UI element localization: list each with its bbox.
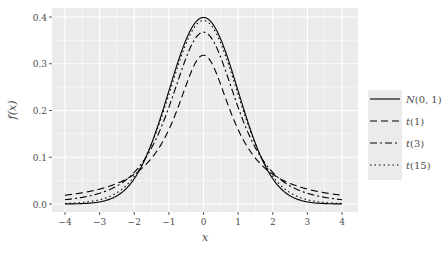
legend: N(0, 1)t(1)t(3)t(15) (368, 90, 442, 180)
x-axis: −4−3−2−101234 (58, 212, 345, 227)
density-chart: 0.00.10.20.30.4 −4−3−2−101234 x f(x) N(0… (0, 0, 444, 255)
legend-label: N(0, 1) (405, 94, 442, 105)
legend-label: t(1) (406, 116, 424, 127)
x-axis-label: x (202, 231, 209, 244)
svg-text:−1: −1 (162, 217, 175, 227)
svg-text:−4: −4 (58, 217, 72, 227)
svg-text:0.1: 0.1 (33, 153, 47, 163)
svg-text:−3: −3 (93, 217, 107, 227)
legend-label: t(15) (406, 160, 431, 171)
y-axis-label: f(x) (6, 101, 19, 121)
svg-text:2: 2 (270, 217, 276, 227)
svg-text:3: 3 (305, 217, 311, 227)
svg-text:0.4: 0.4 (33, 13, 48, 23)
svg-text:−2: −2 (128, 217, 141, 227)
svg-text:0: 0 (201, 217, 207, 227)
legend-label: t(3) (406, 138, 424, 149)
svg-text:1: 1 (235, 217, 241, 227)
svg-text:f(x): f(x) (6, 101, 19, 121)
svg-text:0.2: 0.2 (33, 106, 47, 116)
svg-text:4: 4 (339, 217, 345, 227)
svg-text:0.0: 0.0 (33, 200, 48, 210)
y-axis: 0.00.10.20.30.4 (33, 13, 52, 210)
svg-text:0.3: 0.3 (33, 59, 48, 69)
